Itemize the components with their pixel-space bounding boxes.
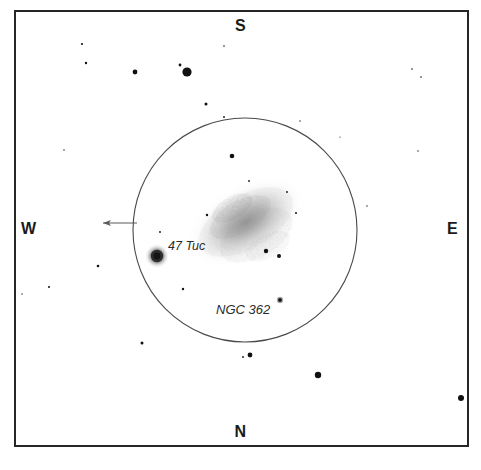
field-star: [223, 45, 225, 47]
field-star: [286, 191, 288, 193]
field-star: [366, 205, 367, 206]
field-star: [63, 149, 64, 150]
field-star: [295, 212, 297, 214]
field-star: [97, 265, 100, 268]
field-star: [133, 70, 138, 75]
field-star: [48, 286, 50, 288]
field-star: [141, 342, 144, 345]
field-star: [315, 372, 321, 378]
field-star: [242, 356, 244, 358]
globular-cluster-ngc362: [277, 297, 283, 303]
field-star: [21, 293, 22, 294]
field-star: [277, 254, 281, 258]
cardinal-label-west: W: [21, 221, 37, 237]
sky-canvas: [0, 0, 481, 470]
field-star: [223, 116, 225, 118]
field-star: [182, 67, 191, 76]
field-star: [458, 395, 464, 401]
object-label-47-tuc: 47 Tuc: [168, 240, 205, 253]
cardinal-label-north: N: [0, 424, 481, 440]
field-star: [230, 154, 235, 159]
field-star: [299, 120, 300, 121]
field-star: [417, 150, 418, 151]
field-star: [248, 180, 250, 182]
field-star: [159, 231, 161, 233]
star-chart: S N W E 47 Tuc NGC 362: [0, 0, 481, 470]
cardinal-label-east: E: [447, 221, 458, 237]
globular-cluster-47tuc: [145, 244, 170, 269]
field-star: [420, 76, 422, 78]
field-star: [179, 64, 182, 67]
field-star: [339, 136, 340, 137]
field-star: [264, 249, 268, 253]
field-star: [205, 103, 208, 106]
field-star: [182, 288, 184, 290]
field-star: [248, 353, 253, 358]
smc-galaxy: [165, 152, 326, 291]
field-star: [411, 68, 413, 70]
field-star: [206, 214, 208, 216]
object-label-ngc-362: NGC 362: [216, 303, 270, 316]
field-star: [81, 43, 83, 45]
cardinal-label-south: S: [0, 18, 481, 34]
field-star: [85, 62, 87, 64]
